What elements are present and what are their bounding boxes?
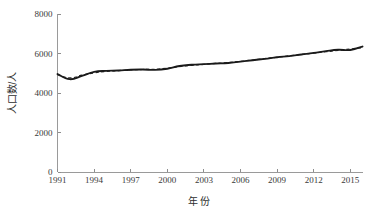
plot-axes: 02000400060008000 1991199419972000200320… — [35, 9, 363, 185]
x-tick-label: 1991 — [49, 175, 67, 185]
y-tick-label: 6000 — [35, 49, 54, 59]
series-line-actual — [58, 47, 363, 80]
x-tick-label: 2012 — [305, 175, 323, 185]
x-tick-label: 2006 — [232, 175, 251, 185]
chart-figure: 02000400060008000 1991199419972000200320… — [0, 0, 374, 215]
y-tick-label: 2000 — [35, 128, 54, 138]
x-tick-label: 2003 — [195, 175, 214, 185]
x-axis-title: 年 份 — [188, 195, 211, 207]
x-tick-label: 1994 — [85, 175, 104, 185]
x-tick-label: 1997 — [122, 175, 141, 185]
population-line-chart: 02000400060008000 1991199419972000200320… — [0, 0, 374, 215]
x-tick-label: 2000 — [158, 175, 177, 185]
x-axis-ticks: 199119941997200020032006200920122015 — [49, 169, 360, 186]
x-tick-label: 2009 — [268, 175, 287, 185]
plot-series — [58, 47, 363, 80]
y-axis-title: 人口数/人 — [6, 72, 18, 115]
y-tick-label: 8000 — [35, 9, 54, 19]
y-tick-label: 4000 — [35, 88, 54, 98]
x-tick-label: 2015 — [341, 175, 360, 185]
